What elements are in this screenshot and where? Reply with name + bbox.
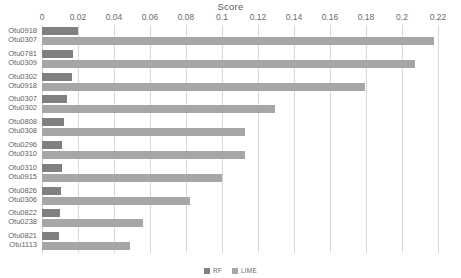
x-axis-tick-labels: 00.020.040.060.080.10.120.140.160.180.20… xyxy=(0,12,461,25)
y-label-lime: Otu0918 xyxy=(0,81,40,90)
plot-area xyxy=(42,25,446,253)
bar-group xyxy=(42,27,446,50)
bar-lime[interactable] xyxy=(42,151,245,159)
legend-item-rf[interactable]: RF xyxy=(204,267,222,274)
bar-lime[interactable] xyxy=(42,37,434,45)
y-category-group: Otu0302Otu0918 xyxy=(0,72,40,90)
bar-group xyxy=(42,95,446,118)
y-label-lime: Otu0308 xyxy=(0,126,40,135)
y-category-group: Otu0826Otu0306 xyxy=(0,186,40,204)
bar-lime[interactable] xyxy=(42,105,275,113)
x-tick-label: 0.12 xyxy=(250,12,267,22)
y-category-group: Otu0296Otu0310 xyxy=(0,140,40,158)
bar-rf[interactable] xyxy=(42,141,62,149)
bar-lime[interactable] xyxy=(42,128,245,136)
y-label-rf: Otu0808 xyxy=(0,117,40,126)
y-label-rf: Otu0821 xyxy=(0,231,40,240)
y-category-group: Otu0781Otu0309 xyxy=(0,49,40,67)
x-tick-label: 0.22 xyxy=(430,12,447,22)
bar-rf[interactable] xyxy=(42,118,64,126)
chart-title: Score xyxy=(0,1,461,12)
bar-rf[interactable] xyxy=(42,27,78,35)
y-label-lime: Otu0238 xyxy=(0,217,40,226)
y-category-group: Otu0821Otu1113 xyxy=(0,231,40,249)
y-label-lime: Otu1113 xyxy=(0,240,40,249)
bar-group xyxy=(42,118,446,141)
y-label-lime: Otu0306 xyxy=(0,195,40,204)
bar-rf[interactable] xyxy=(42,50,73,58)
bar-rf[interactable] xyxy=(42,209,60,217)
x-tick-label: 0.04 xyxy=(106,12,123,22)
bar-group xyxy=(42,50,446,73)
chart-legend: RFLIME xyxy=(0,267,461,274)
y-label-lime: Otu0309 xyxy=(0,58,40,67)
y-category-group: Otu0918Otu0307 xyxy=(0,26,40,44)
legend-swatch-icon xyxy=(204,268,210,274)
bar-lime[interactable] xyxy=(42,174,222,182)
x-tick-label: 0.02 xyxy=(70,12,87,22)
bar-group xyxy=(42,141,446,164)
x-tick-label: 0.08 xyxy=(178,12,195,22)
x-tick-label: 0.14 xyxy=(286,12,303,22)
y-category-group: Otu0822Otu0238 xyxy=(0,208,40,226)
x-tick-label: 0.06 xyxy=(142,12,159,22)
y-category-group: Otu0310Otu0915 xyxy=(0,163,40,181)
x-tick-label: 0.18 xyxy=(358,12,375,22)
x-tick-label: 0.1 xyxy=(216,12,228,22)
bar-group xyxy=(42,187,446,210)
y-label-rf: Otu0781 xyxy=(0,49,40,58)
bar-lime[interactable] xyxy=(42,242,130,250)
bar-lime[interactable] xyxy=(42,83,365,91)
x-tick-label: 0 xyxy=(40,12,45,22)
bar-lime[interactable] xyxy=(42,60,415,68)
y-label-lime: Otu0307 xyxy=(0,35,40,44)
legend-item-lime[interactable]: LIME xyxy=(232,267,257,274)
bar-group xyxy=(42,73,446,96)
y-category-group: Otu0808Otu0308 xyxy=(0,117,40,135)
y-axis-category-labels: Otu0918Otu0307Otu0781Otu0309Otu0302Otu09… xyxy=(0,25,42,253)
y-label-rf: Otu0826 xyxy=(0,186,40,195)
y-label-lime: Otu0915 xyxy=(0,172,40,181)
bar-group xyxy=(42,209,446,232)
y-label-rf: Otu0302 xyxy=(0,72,40,81)
bar-group xyxy=(42,164,446,187)
y-label-rf: Otu0918 xyxy=(0,26,40,35)
y-label-rf: Otu0310 xyxy=(0,163,40,172)
bar-rf[interactable] xyxy=(42,164,62,172)
y-label-rf: Otu0296 xyxy=(0,140,40,149)
bar-chart: Score 00.020.040.060.080.10.120.140.160.… xyxy=(0,0,461,278)
y-label-lime: Otu0302 xyxy=(0,103,40,112)
bar-lime[interactable] xyxy=(42,197,190,205)
bar-rf[interactable] xyxy=(42,187,61,195)
y-label-rf: Otu0822 xyxy=(0,208,40,217)
x-tick-label: 0.2 xyxy=(396,12,408,22)
bar-lime[interactable] xyxy=(42,219,143,227)
bar-rf[interactable] xyxy=(42,232,59,240)
y-label-lime: Otu0310 xyxy=(0,149,40,158)
legend-label: RF xyxy=(213,267,222,274)
bar-rf[interactable] xyxy=(42,95,67,103)
bar-group xyxy=(42,232,446,255)
legend-swatch-icon xyxy=(232,268,238,274)
y-label-rf: Otu0307 xyxy=(0,94,40,103)
x-tick-label: 0.16 xyxy=(322,12,339,22)
legend-label: LIME xyxy=(241,267,257,274)
bar-rf[interactable] xyxy=(42,73,72,81)
y-category-group: Otu0307Otu0302 xyxy=(0,94,40,112)
